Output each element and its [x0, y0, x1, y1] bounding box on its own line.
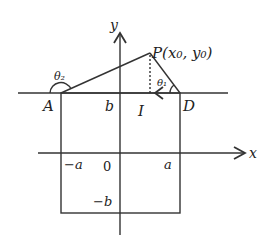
pos-a-label: a [164, 157, 172, 172]
theta1-label: θ₁ [157, 77, 167, 88]
point-A-label: A [41, 97, 54, 115]
theta2-arc [50, 83, 71, 93]
y-axis-label: y [109, 17, 119, 33]
diagram: y x P(x₀, y₀) A D b I θ₂ θ₁ −a 0 a −b [0, 0, 269, 247]
b-label: b [105, 98, 114, 114]
diagram-canvas: y x P(x₀, y₀) A D b I θ₂ θ₁ −a 0 a −b [0, 0, 269, 247]
point-D-label: D [182, 97, 195, 115]
neg-a-label: −a [64, 157, 83, 172]
neg-b-label: −b [93, 194, 112, 209]
theta2-label: θ₂ [54, 70, 65, 83]
line-A-to-P [61, 53, 150, 93]
theta1-arc [170, 85, 174, 93]
x-axis-label: x [249, 145, 257, 161]
origin-label: 0 [103, 159, 111, 174]
current-label: I [137, 102, 145, 120]
point-P-label: P(x₀, y₀) [151, 44, 212, 62]
